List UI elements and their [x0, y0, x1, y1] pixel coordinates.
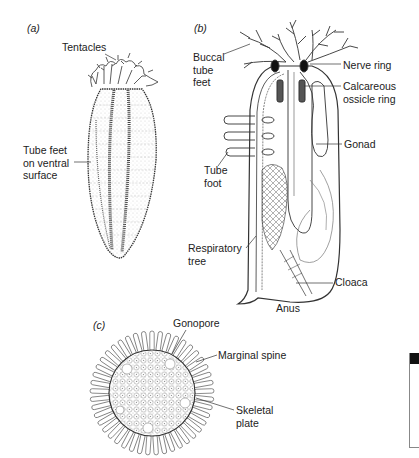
calcareous-ring-right: [299, 80, 305, 102]
calcareous-ring-left: [277, 80, 283, 102]
sea-cucumber-internal-illustration: [218, 20, 358, 304]
cloaca: [280, 250, 312, 296]
buccal-tube-feet: [240, 20, 358, 68]
gonad: [312, 81, 328, 156]
tentacles-crown: [88, 53, 158, 87]
nerve-ring-right: [300, 60, 308, 72]
nerve-ring-left: [271, 60, 279, 72]
sea-cucumber-external-illustration: [74, 53, 158, 258]
skeletal-plate-illustration: [90, 330, 234, 455]
respiratory-tree: [262, 164, 287, 250]
cropped-table-box: [409, 353, 419, 448]
cropped-table-header: [410, 353, 419, 364]
body-outline: [88, 89, 156, 258]
